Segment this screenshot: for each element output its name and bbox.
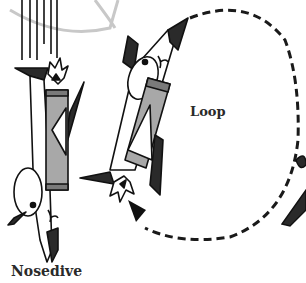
background-arc — [10, 0, 118, 31]
nosedive-label: Nosedive — [11, 263, 82, 279]
speed-lines-icon — [22, 0, 57, 60]
arrowhead-icon — [128, 200, 146, 222]
loop-rocket — [80, 18, 188, 202]
rocket-maneuver-diagram — [0, 0, 306, 283]
nosedive-rocket — [8, 58, 84, 262]
partial-rocket-right — [282, 156, 306, 226]
loop-label: Loop — [190, 104, 226, 119]
